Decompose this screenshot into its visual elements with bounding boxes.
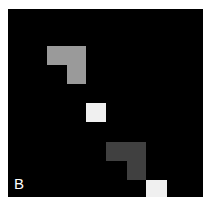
block-3-right xyxy=(127,161,146,180)
panel-label: B xyxy=(14,176,24,191)
block-3-top xyxy=(106,142,146,161)
block-1-top xyxy=(47,46,86,65)
block-2 xyxy=(86,103,106,122)
block-4 xyxy=(146,180,167,197)
matrix-panel: B xyxy=(8,9,203,197)
block-1-right xyxy=(67,65,86,84)
